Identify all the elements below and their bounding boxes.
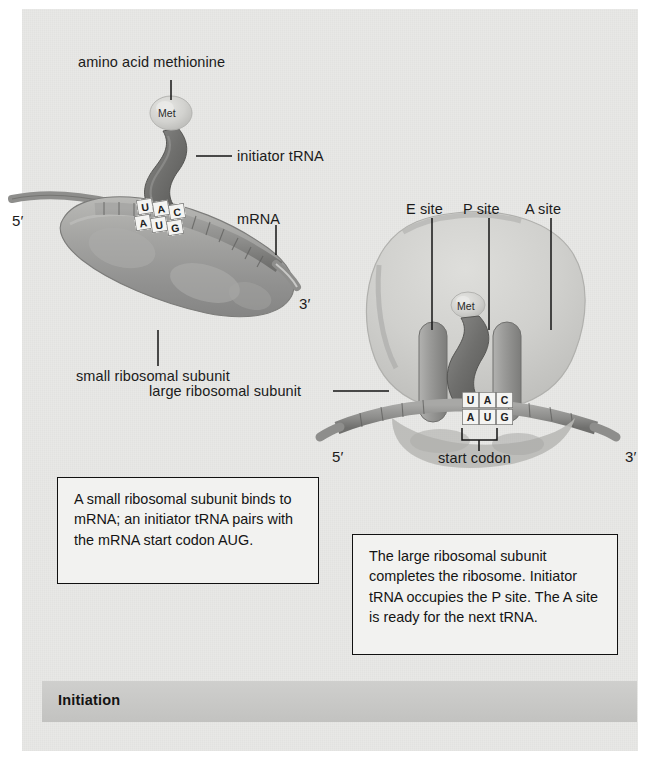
- label-five-prime-right: 5′: [332, 448, 343, 465]
- stage-title: Initiation: [58, 692, 120, 708]
- codon-tile-u: U: [150, 216, 168, 233]
- codon-tile-g: G: [166, 219, 184, 236]
- label-met-badge-right: Met: [457, 300, 475, 312]
- label-three-prime-left: 3′: [299, 295, 310, 312]
- label-mrna: mRNA: [237, 211, 280, 228]
- label-e-site: E site: [406, 201, 443, 218]
- right-codon-tile-u: U: [479, 409, 496, 425]
- anticodon-tile-a: A: [152, 200, 170, 217]
- right-panel-artwork: [320, 212, 616, 468]
- right-codon-tile-g: G: [496, 409, 513, 425]
- codon-tile-a: A: [134, 214, 152, 231]
- right-anticodon-tile-u: U: [462, 392, 479, 408]
- label-three-prime-right: 3′: [625, 448, 636, 465]
- right-codon-tile-a: A: [462, 409, 479, 425]
- label-start-codon: start codon: [438, 450, 511, 467]
- callout-right: The large ribosomal subunit completes th…: [352, 534, 618, 655]
- right-anticodon-tile-a: A: [479, 392, 496, 408]
- right-anticodon-tile-c: C: [496, 392, 513, 408]
- label-five-prime-left: 5′: [12, 212, 23, 229]
- callout-left: A small ribosomal subunit binds to mRNA;…: [57, 477, 319, 584]
- label-large-ribosomal-subunit: large ribosomal subunit: [149, 383, 301, 400]
- label-met-badge-left: Met: [158, 107, 176, 119]
- anticodon-tile-u: U: [136, 198, 154, 215]
- figure-initiation: U A C A U G U A C A U G amino acid methi…: [0, 0, 654, 758]
- label-p-site: P site: [463, 201, 500, 218]
- label-a-site: A site: [525, 201, 561, 218]
- anticodon-tile-c: C: [168, 203, 186, 220]
- label-initiator-trna: initiator tRNA: [237, 148, 324, 165]
- label-amino-acid-methionine: amino acid methionine: [78, 54, 225, 71]
- stage-band: [42, 681, 637, 722]
